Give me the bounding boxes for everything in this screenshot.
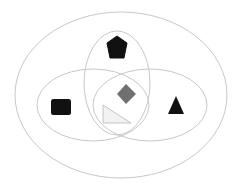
venn-canvas	[0, 0, 239, 188]
square-shape	[51, 99, 71, 115]
diamond-shape	[117, 84, 136, 104]
venn-diagram	[0, 0, 239, 188]
triangle-shape	[168, 96, 184, 114]
pentagon-shape	[107, 36, 127, 58]
right-triangle-shape	[103, 105, 131, 123]
